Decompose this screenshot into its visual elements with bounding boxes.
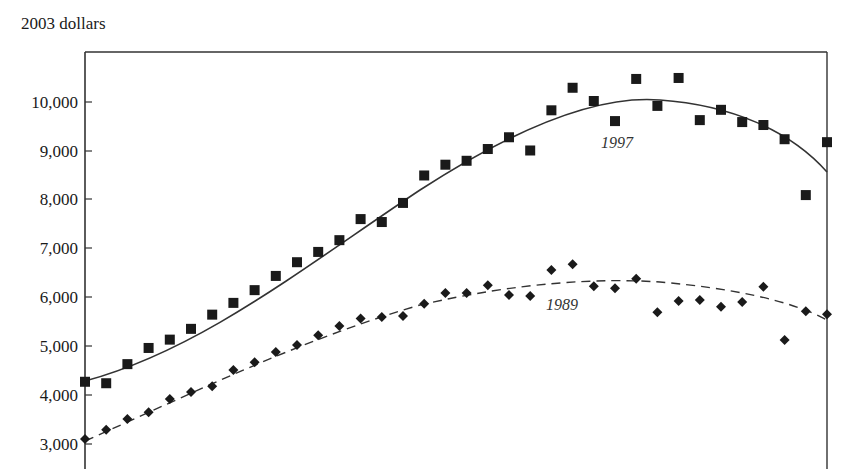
data-point-1997 <box>419 170 429 180</box>
data-point-1997 <box>504 132 514 142</box>
data-point-1997 <box>356 214 366 224</box>
data-point-1997 <box>377 217 387 227</box>
data-point-1997 <box>525 145 535 155</box>
data-point-1997 <box>568 83 578 93</box>
data-point-1997 <box>780 134 790 144</box>
y-tick-label: 3,000 <box>40 435 78 454</box>
data-point-1997 <box>122 359 132 369</box>
data-point-1997 <box>101 378 111 388</box>
data-point-1989 <box>80 434 90 444</box>
y-tick-label: 6,000 <box>40 288 78 307</box>
data-point-1989 <box>674 296 684 306</box>
y-tick-label: 9,000 <box>40 142 78 161</box>
data-point-1997 <box>631 74 641 84</box>
data-point-1997 <box>207 310 217 320</box>
plot-frame <box>85 52 827 469</box>
y-tick-label: 10,000 <box>31 93 78 112</box>
data-point-1997 <box>313 247 323 257</box>
data-point-1997 <box>610 116 620 126</box>
data-point-1997 <box>250 285 260 295</box>
series-1989-markers <box>80 259 832 444</box>
data-point-1997 <box>801 190 811 200</box>
data-point-1997 <box>398 198 408 208</box>
data-point-1989 <box>419 299 429 309</box>
data-point-1989 <box>737 297 747 307</box>
data-point-1997 <box>589 96 599 106</box>
data-point-1989 <box>398 311 408 321</box>
data-point-1989 <box>801 306 811 316</box>
chart-canvas: 10,000 9,000 8,000 7,000 6,000 5,000 4,0… <box>0 0 848 469</box>
data-point-1989 <box>780 335 790 345</box>
data-point-1997 <box>652 101 662 111</box>
data-point-1997 <box>737 117 747 127</box>
data-point-1997 <box>822 137 832 147</box>
y-tick-label: 4,000 <box>40 386 78 405</box>
data-point-1997 <box>292 257 302 267</box>
fit-line-1989 <box>85 281 827 441</box>
data-point-1989 <box>695 295 705 305</box>
data-point-1997 <box>186 324 196 334</box>
data-point-1989 <box>546 265 556 275</box>
data-point-1997 <box>334 235 344 245</box>
data-point-1997 <box>758 120 768 130</box>
y-tick-label: 8,000 <box>40 190 78 209</box>
y-axis: 10,000 9,000 8,000 7,000 6,000 5,000 4,0… <box>31 93 92 454</box>
series-label-1989: 1989 <box>546 296 578 313</box>
data-point-1989 <box>440 288 450 298</box>
data-point-1997 <box>440 160 450 170</box>
series-1997-markers <box>80 73 832 388</box>
data-point-1989 <box>758 282 768 292</box>
data-point-1997 <box>462 156 472 166</box>
data-point-1989 <box>631 274 641 284</box>
data-point-1997 <box>228 298 238 308</box>
data-point-1997 <box>695 115 705 125</box>
data-point-1989 <box>377 312 387 322</box>
data-point-1989 <box>568 259 578 269</box>
data-point-1989 <box>122 414 132 424</box>
data-point-1989 <box>589 281 599 291</box>
y-tick-label: 5,000 <box>40 337 78 356</box>
data-point-1997 <box>716 105 726 115</box>
data-point-1997 <box>165 335 175 345</box>
data-point-1989 <box>334 321 344 331</box>
data-point-1989 <box>652 307 662 317</box>
data-point-1997 <box>546 105 556 115</box>
data-point-1989 <box>525 291 535 301</box>
data-point-1989 <box>504 290 514 300</box>
series-label-1997: 1997 <box>601 134 634 151</box>
data-point-1997 <box>674 73 684 83</box>
data-point-1997 <box>271 271 281 281</box>
data-point-1997 <box>483 144 493 154</box>
data-point-1989 <box>144 407 154 417</box>
fit-line-1997 <box>85 99 827 381</box>
data-point-1989 <box>610 283 620 293</box>
y-tick-label: 7,000 <box>40 239 78 258</box>
data-point-1997 <box>144 343 154 353</box>
data-point-1989 <box>483 280 493 290</box>
data-point-1989 <box>165 394 175 404</box>
data-point-1989 <box>716 302 726 312</box>
data-point-1989 <box>250 357 260 367</box>
data-point-1997 <box>80 377 90 387</box>
